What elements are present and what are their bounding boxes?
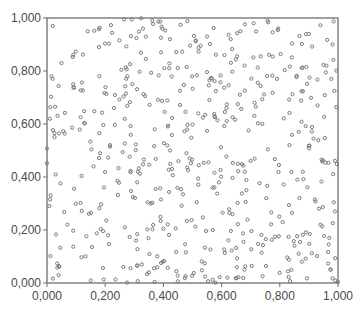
data-point [121, 151, 124, 154]
data-point [259, 55, 262, 58]
data-point [245, 189, 248, 192]
data-point [206, 35, 209, 38]
data-point [124, 92, 127, 95]
data-point [247, 129, 250, 132]
data-point [57, 274, 60, 277]
data-point [109, 24, 112, 27]
data-point [166, 99, 169, 102]
data-point [191, 274, 194, 277]
data-point [180, 204, 183, 207]
data-point [335, 69, 338, 72]
data-point [231, 116, 234, 119]
data-point [53, 136, 56, 139]
data-point [181, 193, 184, 196]
data-point [89, 211, 92, 214]
data-point [250, 264, 253, 267]
data-point [191, 87, 194, 90]
data-point [292, 240, 295, 243]
data-point [168, 67, 171, 70]
data-point [225, 107, 228, 110]
data-point [261, 275, 264, 278]
data-point [57, 84, 60, 87]
data-point [122, 265, 125, 268]
data-point [236, 162, 239, 165]
data-point [144, 94, 147, 97]
data-point [60, 62, 63, 65]
data-point [277, 235, 280, 238]
data-point [216, 119, 219, 122]
data-point [225, 120, 228, 123]
data-point [298, 197, 301, 200]
data-point [237, 170, 240, 173]
data-point [134, 148, 137, 151]
data-point [300, 260, 303, 263]
data-point [317, 139, 320, 142]
data-point [273, 158, 276, 161]
data-point [63, 211, 66, 214]
data-point [113, 93, 116, 96]
data-point [179, 23, 182, 26]
data-point [223, 54, 226, 57]
data-point [140, 263, 143, 266]
y-tick-label: 0,200 [11, 223, 41, 237]
data-point [187, 169, 190, 172]
data-point [306, 186, 309, 189]
data-point [168, 38, 171, 41]
data-point [203, 246, 206, 249]
data-point [148, 163, 151, 166]
data-point [308, 144, 311, 147]
data-point [102, 278, 105, 281]
data-point [308, 232, 311, 235]
data-point [242, 232, 245, 235]
data-point [197, 112, 200, 115]
data-point [78, 128, 81, 131]
data-point [239, 30, 242, 33]
data-point [316, 78, 319, 81]
data-point [103, 42, 106, 45]
data-point [270, 223, 273, 226]
data-point [333, 159, 336, 162]
data-point [275, 77, 278, 80]
scatter-chart: 0,0000,2000,4000,6000,8001,000 0,0000,20… [0, 0, 362, 310]
data-point [56, 114, 59, 117]
data-point [166, 144, 169, 147]
data-point [176, 274, 179, 277]
data-point [244, 265, 247, 268]
data-point [300, 99, 303, 102]
data-point [219, 146, 222, 149]
data-point [171, 116, 174, 119]
data-point [151, 19, 154, 22]
data-point [226, 276, 229, 279]
data-point [322, 63, 325, 66]
data-point [321, 206, 324, 209]
data-point [310, 125, 313, 128]
data-point [59, 246, 62, 249]
data-point [300, 120, 303, 123]
data-point [323, 137, 326, 140]
data-point [203, 262, 206, 265]
data-point [129, 189, 132, 192]
data-point [48, 204, 51, 207]
data-point [319, 24, 322, 27]
data-point [108, 42, 111, 45]
data-point [309, 96, 312, 99]
data-point [243, 268, 246, 271]
data-point [72, 245, 75, 248]
data-point [216, 192, 219, 195]
data-point [246, 218, 249, 221]
data-point [333, 210, 336, 213]
data-point [243, 170, 246, 173]
data-point [101, 266, 104, 269]
data-point [162, 227, 165, 230]
data-point [184, 275, 187, 278]
data-point [125, 45, 128, 48]
data-point [125, 77, 128, 80]
data-point [231, 70, 234, 73]
data-point [242, 276, 245, 279]
data-point [170, 133, 173, 136]
data-point [296, 235, 299, 238]
data-point [185, 152, 188, 155]
data-point [136, 280, 139, 283]
data-point [111, 31, 114, 34]
data-point [205, 71, 208, 74]
